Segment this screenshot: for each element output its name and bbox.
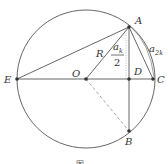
point-D <box>127 77 131 81</box>
point-C <box>151 77 155 81</box>
label-C: C <box>157 74 165 85</box>
point-A <box>127 25 131 29</box>
label-R: R <box>95 48 104 59</box>
label-A: A <box>134 15 142 26</box>
geometry-diagram: A E O D C B R a k 2 a 2k 图 <box>0 0 168 164</box>
label-B: B <box>124 136 132 147</box>
segment-OB-dashed <box>86 79 129 131</box>
label-E: E <box>3 74 12 85</box>
label-D: D <box>133 66 142 77</box>
label-ak-denominator: 2 <box>114 57 120 68</box>
figure-caption: 图 <box>76 160 84 164</box>
point-O <box>84 77 88 81</box>
label-ak-subscript: k <box>119 47 123 55</box>
label-O: O <box>72 68 80 79</box>
label-a2k-subscript: 2k <box>154 49 163 57</box>
point-E <box>15 77 19 81</box>
point-B <box>127 129 131 133</box>
